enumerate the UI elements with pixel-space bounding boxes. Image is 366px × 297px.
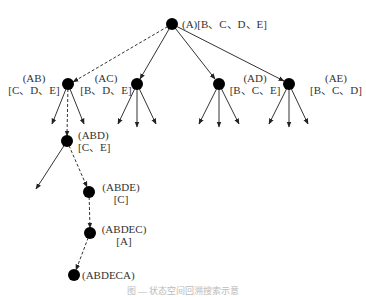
- label-abde: (ABDE) [C]: [96, 181, 146, 205]
- label-ab: (AB) [C、D、E]: [8, 72, 60, 96]
- label-ae-remaining: [B、C、D]: [310, 84, 362, 96]
- node-abdec: [84, 227, 96, 239]
- node-ab: [62, 78, 74, 90]
- node-ac: [131, 78, 143, 90]
- label-ad: (AD) [B、C、E]: [229, 72, 281, 96]
- edge-ac-right: [137, 84, 156, 124]
- label-ac: (AC) [B、D、E]: [80, 72, 132, 96]
- label-ab-state: (AB): [8, 72, 60, 84]
- label-ad-remaining: [B、C、E]: [229, 84, 281, 96]
- label-abde-state: (ABDE): [96, 181, 146, 193]
- figure-caption: 图 — 状态空间回溯搜索示意: [0, 284, 366, 297]
- label-ab-remaining: [C、D、E]: [8, 84, 60, 96]
- label-ac-remaining: [B、D、E]: [80, 84, 132, 96]
- edge-a-ad: [172, 24, 215, 79]
- edge-abd-left: [36, 141, 67, 189]
- node-a: [166, 18, 178, 30]
- label-abd-state: (ABD): [78, 129, 110, 141]
- label-abdeca: (ABDECA): [82, 269, 135, 281]
- edge-ae-right: [289, 84, 308, 124]
- label-abd-remaining: [C、E]: [78, 141, 110, 153]
- label-abdec-remaining: [A]: [97, 235, 151, 247]
- label-ac-state: (AC): [80, 72, 132, 84]
- label-ad-state: (AD): [229, 72, 281, 84]
- search-tree-diagram: [0, 0, 366, 297]
- node-abd: [61, 135, 73, 147]
- label-abdec-state: (ABDEC): [97, 223, 151, 235]
- label-abd: (ABD) [C、E]: [78, 129, 110, 153]
- label-ae: (AE) [B、C、D]: [310, 72, 362, 96]
- label-abde-remaining: [C]: [96, 193, 146, 205]
- edge-a-ac: [140, 24, 172, 79]
- node-abdeca: [68, 269, 80, 281]
- node-ad: [213, 78, 225, 90]
- label-abdec: (ABDEC) [A]: [97, 223, 151, 247]
- edge-ab-abd: [67, 84, 68, 136]
- label-a: (A)[B、C、D、E]: [182, 18, 267, 30]
- node-ae: [283, 78, 295, 90]
- label-ae-state: (AE): [310, 72, 362, 84]
- edge-ad-left: [199, 84, 219, 124]
- node-abde: [83, 186, 95, 198]
